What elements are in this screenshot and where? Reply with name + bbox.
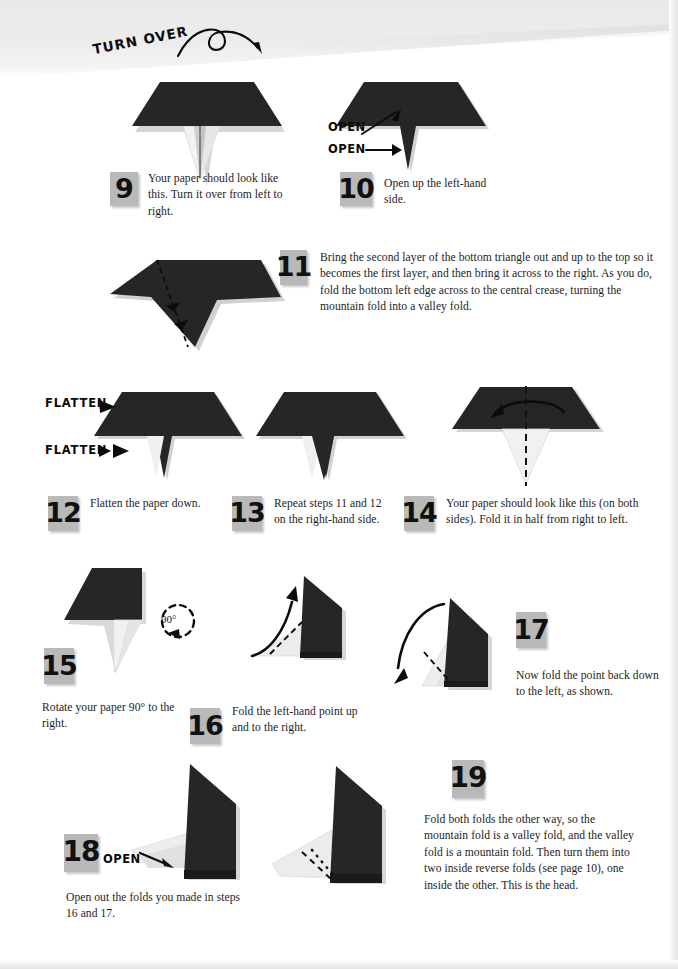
step-badge-15: 15 — [44, 648, 74, 684]
step-badge-14: 14 — [404, 496, 434, 531]
callout-open-step-18: OPEN — [103, 852, 141, 866]
open-upper-arrow-icon — [360, 106, 408, 138]
turn-over-arrow-icon — [176, 26, 266, 62]
step-text-17: Now fold the point back down to the left… — [516, 668, 664, 701]
step-badge-19: 19 — [452, 760, 484, 798]
diagram-step-13 — [252, 386, 402, 486]
rotate-angle-label: 90° — [161, 613, 176, 625]
step-badge-12: 12 — [48, 496, 78, 531]
step-text-9: Your paper should look like this. Turn i… — [148, 171, 301, 220]
diagram-step-18 — [132, 752, 282, 892]
step-text-11: Bring the second layer of the bottom tri… — [320, 250, 666, 316]
diagram-step-11 — [104, 248, 284, 353]
open-step-18-arrow-icon — [138, 848, 182, 870]
step-badge-17: 17 — [516, 612, 546, 648]
diagram-step-17 — [394, 590, 524, 700]
diagram-step-16 — [250, 568, 390, 678]
step-text-18: Open out the folds you made in steps 16 … — [66, 890, 246, 923]
page-right-edge — [669, 0, 678, 969]
step-badge-16: 16 — [190, 708, 220, 744]
step-text-15: Rotate your paper 90° to the right. — [42, 700, 180, 733]
step-text-13: Repeat steps 11 and 12 on the right-hand… — [274, 496, 396, 529]
step-badge-13: 13 — [232, 496, 262, 531]
flatten-upper-arrow-icon — [98, 398, 124, 416]
callout-flatten-lower: FLATTEN — [45, 443, 107, 457]
diagram-step-14 — [446, 382, 626, 488]
callout-open-lower: OPEN — [328, 142, 366, 156]
diagram-step-19 — [272, 754, 422, 894]
step-text-12: Flatten the paper down. — [90, 496, 210, 512]
step-text-14: Your paper should look like this (on bot… — [446, 496, 646, 529]
page-bottom-edge — [0, 960, 678, 969]
open-lower-arrow-icon — [364, 140, 408, 160]
step-text-16: Fold the left-hand point up and to the r… — [232, 704, 376, 737]
flatten-lower-arrow-icon — [99, 442, 135, 460]
step-badge-10: 10 — [340, 172, 372, 206]
step-badge-11: 11 — [280, 250, 307, 285]
diagram-step-9 — [128, 74, 288, 184]
instruction-page: TURN OVER OPEN — [0, 0, 678, 969]
step-text-10: Open up the left-hand side. — [384, 176, 494, 209]
step-badge-9: 9 — [110, 172, 138, 206]
step-text-19: Fold both folds the other way, so the mo… — [424, 812, 642, 894]
step-badge-18: 18 — [64, 834, 98, 872]
